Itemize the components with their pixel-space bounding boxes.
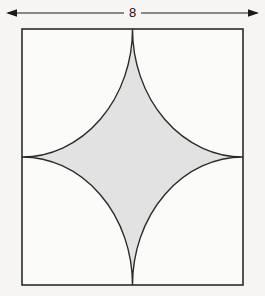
geometry-figure: 8 — [0, 0, 265, 296]
figure-canvas: 8 — [0, 0, 265, 296]
dimension-label: 8 — [129, 5, 136, 20]
